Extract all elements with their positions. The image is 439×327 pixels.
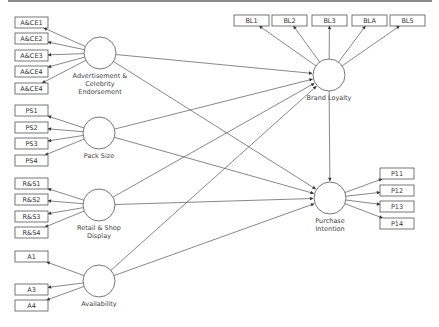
loading-arrow-bla xyxy=(339,26,366,62)
latent-availability[interactable]: Availability xyxy=(81,265,117,308)
indicator-label: A&CE2 xyxy=(20,35,42,43)
latent-circle xyxy=(83,265,115,297)
latent-pack-size[interactable]: Pack Size xyxy=(83,117,115,160)
indicator-ps4[interactable]: PS4 xyxy=(15,155,48,166)
indicator-rands1[interactable]: R&S1 xyxy=(15,178,48,189)
indicator-rands2[interactable]: R&S2 xyxy=(15,194,48,205)
indicator-p12[interactable]: P12 xyxy=(380,185,414,196)
indicator-label: R&S3 xyxy=(23,213,41,221)
loading-arrow-aandce2 xyxy=(48,42,84,50)
loading-arrow-ps1 xyxy=(48,116,84,128)
path-av-to-bl xyxy=(111,86,316,270)
indicator-aandce3[interactable]: A&CE3 xyxy=(15,50,48,61)
indicator-rands4[interactable]: R&S4 xyxy=(15,227,48,238)
indicator-aandce4[interactable]: A&CE4 xyxy=(15,83,48,94)
latent-label: Availability xyxy=(81,300,117,308)
latent-circle xyxy=(313,59,345,91)
loading-arrow-p11 xyxy=(345,179,382,193)
indicator-aandce4[interactable]: A&CE4 xyxy=(15,66,48,77)
latent-purchase-intention[interactable]: PurchaseIntention xyxy=(314,182,346,233)
indicator-p14[interactable]: P14 xyxy=(380,218,414,229)
indicator-label: PS3 xyxy=(25,140,37,148)
indicator-bl1[interactable]: BL1 xyxy=(234,15,269,26)
indicator-bla[interactable]: BLA xyxy=(352,15,387,26)
indicator-bl2[interactable]: BL2 xyxy=(272,15,307,26)
loading-arrow-ps4 xyxy=(45,139,84,155)
indicator-a4[interactable]: A4 xyxy=(15,300,48,311)
indicator-label: A4 xyxy=(27,302,36,310)
indicator-rands3[interactable]: R&S3 xyxy=(15,211,48,222)
indicator-label: P13 xyxy=(391,203,403,211)
path-ace-to-pi xyxy=(114,62,316,189)
indicator-bl3[interactable]: BL3 xyxy=(312,15,347,26)
latent-label: Endorsement xyxy=(78,88,122,96)
indicator-label: A&CE1 xyxy=(20,19,42,27)
latent-brand-loyalty[interactable]: Brand Loyalty xyxy=(307,59,352,102)
latent-label: Advertisement & xyxy=(73,72,128,80)
indicator-label: A&CE4 xyxy=(20,68,42,76)
latent-circle xyxy=(84,37,116,69)
indicator-aandce2[interactable]: A&CE2 xyxy=(15,33,48,44)
indicator-label: A1 xyxy=(27,253,36,261)
indicator-a3[interactable]: A3 xyxy=(15,284,48,295)
loading-arrow-ps3 xyxy=(48,135,83,140)
latent-label: Celebrity xyxy=(85,80,114,88)
loading-arrow-bl2 xyxy=(293,26,319,62)
indicator-label: PS2 xyxy=(25,124,37,132)
latent-label: Display xyxy=(87,232,111,240)
loading-arrow-rands3 xyxy=(48,208,83,214)
indicator-label: BL5 xyxy=(401,17,413,25)
indicator-ps2[interactable]: PS2 xyxy=(15,122,48,133)
loading-arrow-aandce4 xyxy=(48,57,85,67)
indicator-aandce1[interactable]: A&CE1 xyxy=(15,17,48,28)
path-ps-to-bl xyxy=(115,79,313,129)
indicator-label: A&CE3 xyxy=(20,52,42,60)
latent-label: Pack Size xyxy=(84,152,114,160)
path-diagram: A&CE1A&CE2A&CE3A&CE4A&CE4PS1PS2PS3PS4R&S… xyxy=(0,0,439,327)
loading-arrow-bl1 xyxy=(259,26,316,66)
loading-arrow-rands2 xyxy=(48,201,83,204)
path-rsd-to-bl xyxy=(113,83,314,197)
path-rsd-to-pi xyxy=(115,199,313,205)
latent-advertisement-and-celebrity-endorsement[interactable]: Advertisement &CelebrityEndorsement xyxy=(73,37,128,96)
loading-arrow-p14 xyxy=(345,204,383,218)
indicator-label: R&S1 xyxy=(23,180,41,188)
indicator-label: PS1 xyxy=(25,107,37,115)
indicator-a1[interactable]: A1 xyxy=(15,251,48,262)
indicator-p13[interactable]: P13 xyxy=(380,201,414,212)
indicator-label: P14 xyxy=(391,220,403,228)
indicator-label: P11 xyxy=(391,170,403,178)
loading-arrow-a4 xyxy=(47,286,84,300)
latent-label: Intention xyxy=(315,225,344,233)
loading-arrow-aandce3 xyxy=(48,54,84,55)
latent-label: Purchase xyxy=(315,217,345,225)
loading-arrow-p13 xyxy=(346,200,380,204)
indicator-label: PS4 xyxy=(25,157,37,165)
loading-arrow-aandce1 xyxy=(44,28,86,46)
indicator-ps3[interactable]: PS3 xyxy=(15,138,48,149)
latent-circle xyxy=(314,182,346,214)
indicator-label: A&CE4 xyxy=(20,85,42,93)
path-av-to-pi xyxy=(114,204,314,276)
indicator-label: P12 xyxy=(391,187,403,195)
loading-arrow-rands1 xyxy=(48,189,84,200)
path-ace-to-bl xyxy=(116,55,312,74)
loading-arrow-p12 xyxy=(346,192,380,196)
indicator-label: R&S2 xyxy=(23,196,41,204)
indicator-ps1[interactable]: PS1 xyxy=(15,105,48,116)
path-bl-to-pi xyxy=(329,91,330,181)
indicator-label: BL3 xyxy=(323,17,335,25)
indicator-label: BLA xyxy=(363,17,376,25)
indicator-p11[interactable]: P11 xyxy=(380,168,414,179)
indicator-label: BL2 xyxy=(283,17,295,25)
latent-circle xyxy=(83,189,115,221)
path-ps-to-pi xyxy=(114,137,313,193)
indicator-label: A3 xyxy=(27,286,36,294)
latent-circle xyxy=(83,117,115,149)
latent-label: Retail & Shop xyxy=(77,224,121,232)
indicator-label: R&S4 xyxy=(23,229,41,237)
indicator-bl5[interactable]: BL5 xyxy=(390,15,425,26)
loading-arrow-a1 xyxy=(47,262,84,276)
loading-arrow-a3 xyxy=(48,283,83,287)
loading-arrow-ps2 xyxy=(48,129,83,132)
